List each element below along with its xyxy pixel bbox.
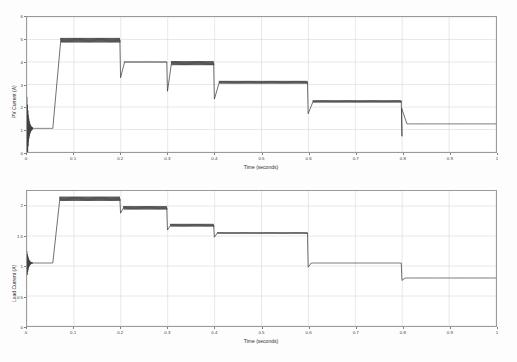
x-tick-label: 0.8	[400, 330, 406, 335]
load-current-plot-panel: 00.10.20.30.40.50.60.70.80.91 00.511.52 …	[0, 182, 517, 362]
x-tick-mark	[497, 153, 498, 155]
x-tick-label: 0.2	[117, 156, 123, 161]
pv-y-axis-title: PV Current (A)	[11, 85, 17, 118]
x-tick-label: 0.4	[211, 156, 217, 161]
x-tick-mark	[262, 153, 263, 155]
load-y-axis-title: Load Current (A)	[11, 265, 17, 302]
x-tick-label: 0.5	[258, 156, 264, 161]
x-tick-mark	[120, 327, 121, 329]
x-tick-mark	[214, 327, 215, 329]
x-tick-label: 0.7	[353, 156, 359, 161]
x-tick-mark	[73, 153, 74, 155]
y-tick-mark	[24, 130, 26, 131]
x-tick-mark	[167, 153, 168, 155]
y-tick-label: 1.5	[10, 233, 23, 238]
y-tick-label: 4	[10, 59, 23, 64]
y-tick-label: 6	[10, 14, 23, 19]
y-tick-label: 0	[10, 151, 23, 156]
scope-figure: 00.10.20.30.40.50.60.70.80.91 0123456 Ti…	[0, 0, 517, 362]
x-tick-label: 0.2	[117, 330, 123, 335]
x-tick-label: 0.3	[164, 156, 170, 161]
x-tick-label: 0.6	[306, 330, 312, 335]
x-tick-mark	[403, 327, 404, 329]
x-tick-label: 0	[25, 156, 27, 161]
pv-current-axes	[26, 16, 497, 153]
x-tick-label: 0.3	[164, 330, 170, 335]
y-tick-mark	[24, 266, 26, 267]
x-tick-label: 1	[496, 156, 498, 161]
x-tick-mark	[262, 327, 263, 329]
x-tick-mark	[356, 153, 357, 155]
x-tick-label: 0.9	[447, 330, 453, 335]
x-tick-mark	[26, 327, 27, 329]
x-tick-mark	[167, 327, 168, 329]
x-tick-mark	[26, 153, 27, 155]
x-tick-mark	[356, 327, 357, 329]
load-current-axes	[26, 190, 497, 327]
y-tick-mark	[24, 205, 26, 206]
x-tick-label: 0.5	[258, 330, 264, 335]
pv-x-axis-title: Time (seconds)	[244, 164, 278, 170]
x-tick-label: 0.7	[353, 330, 359, 335]
y-tick-mark	[24, 236, 26, 237]
x-tick-mark	[214, 153, 215, 155]
load-x-axis-title: Time (seconds)	[244, 338, 278, 344]
y-tick-mark	[24, 62, 26, 63]
x-tick-label: 0.1	[70, 330, 76, 335]
load-current-canvas	[27, 191, 496, 326]
y-tick-label: 2	[10, 203, 23, 208]
y-tick-mark	[24, 16, 26, 17]
x-tick-label: 1	[496, 330, 498, 335]
x-tick-mark	[309, 327, 310, 329]
x-tick-mark	[403, 153, 404, 155]
x-tick-mark	[120, 153, 121, 155]
y-tick-mark	[24, 297, 26, 298]
x-tick-label: 0.9	[447, 156, 453, 161]
y-tick-mark	[24, 107, 26, 108]
x-tick-mark	[309, 153, 310, 155]
y-tick-mark	[24, 39, 26, 40]
x-tick-label: 0.6	[306, 156, 312, 161]
y-tick-mark	[24, 327, 26, 328]
y-tick-label: 0	[10, 325, 23, 330]
y-tick-label: 1	[10, 128, 23, 133]
y-tick-mark	[24, 153, 26, 154]
x-tick-label: 0.4	[211, 330, 217, 335]
x-tick-label: 0.1	[70, 156, 76, 161]
pv-current-canvas	[27, 17, 496, 152]
y-tick-mark	[24, 85, 26, 86]
pv-current-plot-panel: 00.10.20.30.40.50.60.70.80.91 0123456 Ti…	[0, 0, 517, 182]
x-tick-mark	[450, 327, 451, 329]
x-tick-mark	[450, 153, 451, 155]
y-tick-label: 5	[10, 36, 23, 41]
x-tick-mark	[497, 327, 498, 329]
x-tick-label: 0	[25, 330, 27, 335]
x-tick-label: 0.8	[400, 156, 406, 161]
x-tick-mark	[73, 327, 74, 329]
